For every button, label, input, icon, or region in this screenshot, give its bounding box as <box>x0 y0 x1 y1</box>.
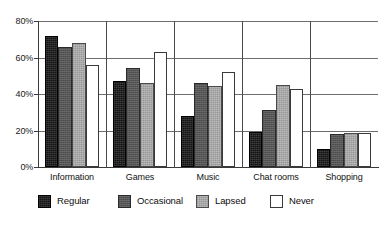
y-tick-label: 0% <box>20 163 33 172</box>
legend-item[interactable]: Regular <box>38 193 90 209</box>
bar <box>194 83 208 167</box>
bar <box>222 72 236 167</box>
x-category-label: Chat rooms <box>242 172 310 183</box>
bar <box>154 52 168 167</box>
y-tick-label: 80% <box>16 17 33 26</box>
bar <box>276 85 290 167</box>
y-axis: 0%20%40%60%80% <box>0 0 36 190</box>
group-separator <box>242 21 243 168</box>
x-category-label: Games <box>106 172 174 183</box>
group-separator <box>174 21 175 168</box>
legend-label: Regular <box>57 196 90 206</box>
bar <box>290 89 304 167</box>
bar <box>344 133 358 167</box>
bar <box>113 81 127 167</box>
bars-layer <box>38 0 379 190</box>
bar <box>262 110 276 167</box>
bar <box>45 36 59 167</box>
legend-item[interactable]: Occasional <box>118 193 183 209</box>
legend-label: Lapsed <box>215 196 246 206</box>
legend-label: Never <box>289 196 314 206</box>
bar-group <box>174 21 242 167</box>
legend-swatch-icon <box>270 195 283 208</box>
bar-chart: 0%20%40%60%80% InformationGamesMusicChat… <box>0 0 390 229</box>
legend-swatch-icon <box>38 195 51 208</box>
bar <box>181 116 195 167</box>
legend-swatch-icon <box>196 195 209 208</box>
x-category-label: Music <box>174 172 242 183</box>
legend-label: Occasional <box>137 196 183 206</box>
legend-item[interactable]: Lapsed <box>196 193 246 209</box>
bar <box>140 83 154 167</box>
bar <box>249 132 263 167</box>
x-axis-category-labels: InformationGamesMusicChat roomsShopping <box>38 172 379 188</box>
bar <box>358 133 372 167</box>
bar-group <box>106 21 174 167</box>
group-separator <box>310 21 311 168</box>
legend-swatch-icon <box>118 195 131 208</box>
x-category-label: Information <box>38 172 106 183</box>
bar <box>208 86 222 167</box>
legend-item[interactable]: Never <box>270 193 314 209</box>
y-tick-label: 60% <box>16 54 33 63</box>
bar <box>126 68 140 167</box>
group-separator <box>106 21 107 168</box>
plot-area: 0%20%40%60%80% InformationGamesMusicChat… <box>0 0 390 190</box>
bar <box>72 43 86 167</box>
bar-group <box>310 21 378 167</box>
y-tick-label: 40% <box>16 90 33 99</box>
bar-group <box>242 21 310 167</box>
bar <box>58 47 72 167</box>
y-tick-label: 20% <box>16 127 33 136</box>
bar <box>86 65 100 167</box>
bar <box>317 149 331 167</box>
bar-group <box>38 21 106 167</box>
x-category-label: Shopping <box>310 172 378 183</box>
chart-legend: RegularOccasionalLapsedNever <box>0 193 390 219</box>
bar <box>330 134 344 167</box>
